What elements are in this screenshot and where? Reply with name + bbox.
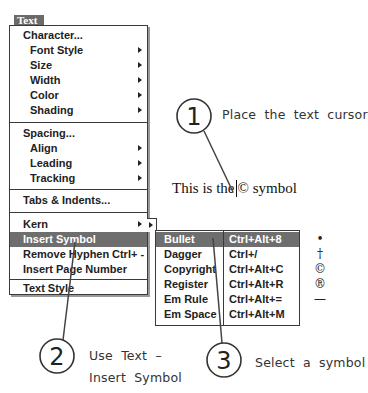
symbol-shortcut: Ctrl+Alt+= xyxy=(229,292,282,307)
menu-item-shortcut: Ctrl+ - xyxy=(112,247,144,262)
callout-3-text: Select a symbol xyxy=(255,355,365,370)
submenu-arrow-icon xyxy=(138,160,142,166)
sample-text: This is the© symbol xyxy=(172,180,297,197)
submenu-arrow-icon xyxy=(138,47,142,53)
menu-item-label: Width xyxy=(30,73,60,88)
symbol-item-copyright[interactable]: CopyrightCtrl+Alt+C xyxy=(156,262,299,277)
symbol-shortcut: Ctrl+Alt+R xyxy=(229,277,283,292)
submenu-arrow-icon xyxy=(138,107,142,113)
symbol-item-dagger[interactable]: DaggerCtrl+/ xyxy=(156,247,299,262)
symbol-shortcut: Ctrl+/ xyxy=(229,247,257,262)
menu-item-label: Font Style xyxy=(30,43,83,58)
register-glyph: ® xyxy=(312,277,328,291)
callout-1-number: 1 xyxy=(186,103,201,131)
menu-item-label: Kern xyxy=(23,217,48,232)
menu-item-label: Insert Symbol xyxy=(23,232,96,247)
text-menu: Character... Font Style Size Width Color… xyxy=(9,25,148,295)
symbol-name: Register xyxy=(164,277,208,292)
symbol-item-em-space[interactable]: Em SpaceCtrl+Alt+M xyxy=(156,307,299,322)
symbol-name: Em Rule xyxy=(164,292,208,307)
menu-separator xyxy=(10,189,147,190)
copyright-glyph: © xyxy=(312,262,328,276)
menu-item-size[interactable]: Size xyxy=(10,58,147,73)
callout-1-text: Place the text cursor xyxy=(222,107,368,122)
callout-2-text-line-1: Use Text – xyxy=(89,348,162,363)
menu-item-label: Leading xyxy=(30,156,72,171)
callout-2-text-line-2: Insert Symbol xyxy=(89,370,182,385)
dagger-glyph: † xyxy=(312,247,328,261)
callout-2-number: 2 xyxy=(49,343,64,371)
symbol-item-bullet[interactable]: BulletCtrl+Alt+8 xyxy=(156,232,299,247)
symbol-shortcut: Ctrl+Alt+C xyxy=(229,262,283,277)
menu-item-label: Tabs & Indents... xyxy=(23,193,110,208)
menu-item-character[interactable]: Character... xyxy=(10,28,147,43)
symbol-shortcut: Ctrl+Alt+M xyxy=(229,307,285,322)
menu-separator xyxy=(10,212,147,213)
submenu-arrow-icon xyxy=(138,175,142,181)
menu-item-spacing[interactable]: Spacing... xyxy=(10,126,147,141)
symbol-item-register[interactable]: RegisterCtrl+Alt+R xyxy=(156,277,299,292)
insert-symbol-submenu: BulletCtrl+Alt+8 DaggerCtrl+/ CopyrightC… xyxy=(155,230,300,326)
sample-text-before: This is the xyxy=(172,180,235,196)
symbol-name: Copyright xyxy=(164,262,216,277)
menu-item-width[interactable]: Width xyxy=(10,73,147,88)
menu-item-shading[interactable]: Shading xyxy=(10,103,147,118)
menu-item-remove-hyphen[interactable]: Remove HyphenCtrl+ - xyxy=(10,247,147,262)
symbol-shortcut: Ctrl+Alt+8 xyxy=(229,232,282,247)
menu-separator xyxy=(10,279,147,280)
menu-separator xyxy=(10,122,147,123)
callout-2-circle xyxy=(40,339,74,373)
menu-item-label: Remove Hyphen xyxy=(23,247,109,262)
submenu-column-divider xyxy=(223,231,224,325)
menu-item-tracking[interactable]: Tracking xyxy=(10,171,147,186)
menu-item-tabs-indents[interactable]: Tabs & Indents... xyxy=(10,193,147,208)
symbol-name: Em Space xyxy=(164,307,217,322)
callout-3-number: 3 xyxy=(216,347,231,375)
menu-item-font-style[interactable]: Font Style xyxy=(10,43,147,58)
menu-item-align[interactable]: Align xyxy=(10,141,147,156)
menu-item-leading[interactable]: Leading xyxy=(10,156,147,171)
menu-item-kern[interactable]: Kern xyxy=(10,217,147,232)
menu-item-insert-symbol[interactable]: Insert Symbol xyxy=(10,232,147,247)
menu-item-label: Tracking xyxy=(30,171,75,186)
callout-1-circle xyxy=(177,99,211,133)
menu-item-label: Text Style xyxy=(23,281,74,296)
submenu-arrow-icon xyxy=(138,77,142,83)
menu-item-label: Character... xyxy=(23,28,83,43)
sample-text-after: © symbol xyxy=(238,180,297,196)
menu-item-label: Insert Page Number xyxy=(23,262,127,277)
submenu-arrow-icon xyxy=(138,145,142,151)
menu-item-insert-page-number[interactable]: Insert Page Number xyxy=(10,262,147,277)
menu-item-label: Spacing... xyxy=(23,126,75,141)
menu-item-label: Shading xyxy=(30,103,73,118)
menu-item-label: Size xyxy=(30,58,52,73)
symbol-name: Dagger xyxy=(164,247,202,262)
symbol-name: Bullet xyxy=(164,232,195,247)
submenu-arrow-icon xyxy=(138,221,142,227)
em-rule-glyph: — xyxy=(312,292,328,306)
symbol-item-em-rule[interactable]: Em RuleCtrl+Alt+= xyxy=(156,292,299,307)
submenu-arrow-icon xyxy=(138,62,142,68)
menu-item-label: Color xyxy=(30,88,59,103)
text-cursor xyxy=(236,180,237,197)
menu-item-text-style[interactable]: Text Style xyxy=(10,281,147,296)
bullet-glyph: • xyxy=(312,232,328,246)
submenu-arrow-icon xyxy=(149,222,153,228)
submenu-arrow-icon xyxy=(138,92,142,98)
menu-item-color[interactable]: Color xyxy=(10,88,147,103)
callout-3-circle xyxy=(207,343,241,377)
menu-item-label: Align xyxy=(30,141,58,156)
